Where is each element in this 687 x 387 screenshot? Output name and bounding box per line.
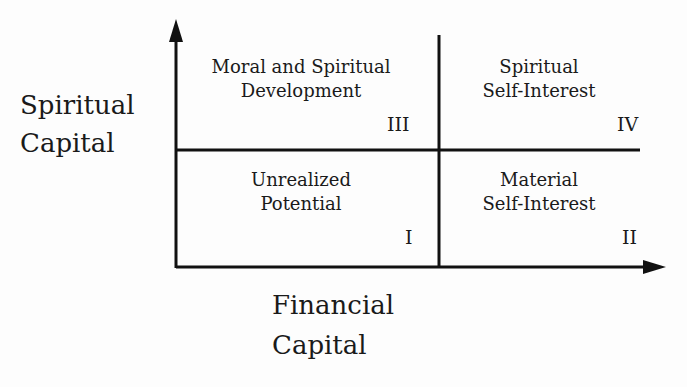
y-axis-label: Spiritual Capital — [20, 86, 135, 162]
quadrant-iii-numeral: III — [387, 113, 410, 135]
x-axis-label: Financial Capital — [272, 285, 394, 365]
x-axis-label-line: Financial — [272, 285, 394, 325]
y-axis-arrow-icon — [169, 19, 183, 42]
quadrant-title-line: Spiritual — [439, 55, 639, 79]
quadrant-title-line: Unrealized — [176, 168, 426, 192]
quadrant-ii-title: Material Self-Interest — [439, 168, 639, 216]
x-axis-arrow-icon — [643, 260, 666, 274]
quadrant-iv-title: Spiritual Self-Interest — [439, 55, 639, 103]
quadrant-i-title: Unrealized Potential — [176, 168, 426, 216]
quadrant-iv-numeral: IV — [617, 113, 638, 135]
quadrant-title-line: Self-Interest — [439, 79, 639, 103]
quadrant-title-line: Potential — [176, 192, 426, 216]
y-axis-label-line: Capital — [20, 124, 135, 162]
quadrant-i-numeral: I — [405, 226, 413, 248]
quadrant-title-line: Material — [439, 168, 639, 192]
x-axis-label-line: Capital — [272, 325, 394, 365]
y-axis-label-line: Spiritual — [20, 86, 135, 124]
quadrant-title-line: Moral and Spiritual — [176, 55, 426, 79]
quadrant-iii-title: Moral and Spiritual Development — [176, 55, 426, 103]
quadrant-ii-numeral: II — [622, 226, 637, 248]
quadrant-title-line: Development — [176, 79, 426, 103]
quadrant-title-line: Self-Interest — [439, 192, 639, 216]
